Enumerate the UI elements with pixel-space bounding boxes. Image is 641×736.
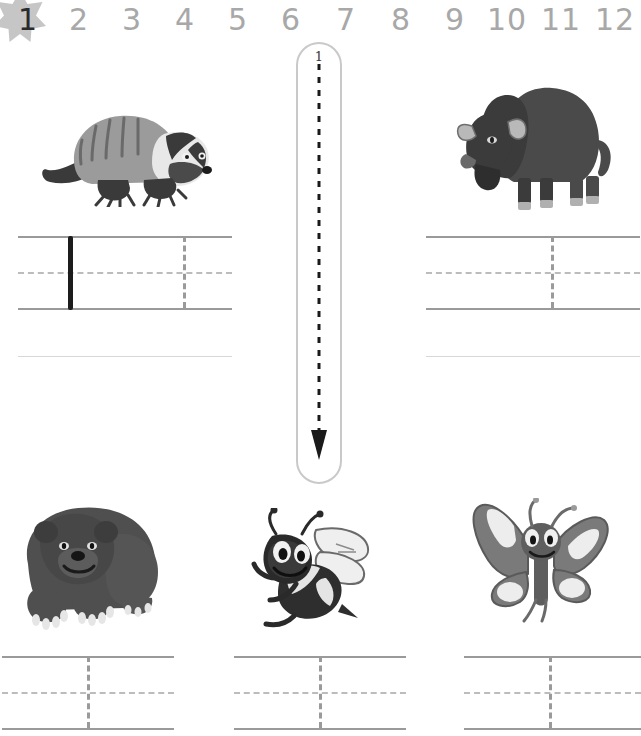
practice-lines-top-right[interactable] — [426, 236, 640, 360]
number-strip-item-12: 12 — [589, 0, 641, 40]
number-strip-item-2: 2 — [53, 0, 105, 40]
number-strip-item-1: 1 — [2, 0, 54, 40]
number-strip-item-3: 3 — [106, 0, 158, 40]
bison-illustration — [452, 78, 617, 213]
number-line-strip: 1 2 3 4 5 6 7 8 9 10 11 12 — [0, 0, 641, 46]
practice-lines-bottom-right[interactable] — [464, 656, 641, 736]
number-strip-item-9: 9 — [429, 0, 481, 40]
worksheet-page: 1 2 3 4 5 6 7 8 9 10 11 12 1 — [0, 0, 641, 736]
rule-line-middle — [18, 272, 232, 274]
number-strip-item-6: 6 — [265, 0, 317, 40]
rule-line-top — [464, 656, 641, 658]
rule-line-bottom — [18, 308, 232, 310]
dashed-guide-stroke[interactable] — [551, 236, 554, 308]
rule-line-middle — [464, 692, 641, 694]
number-strip-item-4: 4 — [159, 0, 211, 40]
number-strip-item-8: 8 — [375, 0, 427, 40]
rule-line-bottom — [464, 728, 641, 730]
rule-line-middle — [426, 272, 640, 274]
number-strip-item-11: 11 — [535, 0, 587, 40]
rule-line-base — [18, 356, 232, 357]
rule-line-top — [18, 236, 232, 238]
dashed-guide-stroke[interactable] — [549, 656, 552, 728]
number-strip-item-5: 5 — [212, 0, 264, 40]
rule-line-top — [426, 236, 640, 238]
dashed-guide-stroke[interactable] — [319, 656, 322, 728]
badger-illustration — [38, 92, 218, 207]
butterfly-illustration — [462, 498, 622, 623]
practice-lines-top-left[interactable] — [18, 236, 232, 360]
bee-illustration — [250, 508, 370, 628]
rule-line-bottom — [234, 728, 406, 730]
number-strip-item-7: 7 — [320, 0, 372, 40]
practice-lines-bottom-left[interactable] — [2, 656, 174, 736]
stroke-direction-arrow-icon — [296, 64, 342, 464]
rule-line-bottom — [2, 728, 174, 730]
dashed-guide-stroke[interactable] — [87, 656, 90, 728]
bear-illustration — [6, 498, 171, 633]
dashed-guide-stroke[interactable] — [183, 236, 186, 308]
practice-lines-bottom-center[interactable] — [234, 656, 406, 736]
number-1-stroke-guide: 1 — [296, 42, 344, 486]
traced-number-1 — [68, 236, 73, 310]
rule-line-base — [426, 356, 640, 357]
rule-line-bottom — [426, 308, 640, 310]
number-strip-item-10: 10 — [481, 0, 533, 40]
stroke-order-label: 1 — [296, 50, 342, 64]
